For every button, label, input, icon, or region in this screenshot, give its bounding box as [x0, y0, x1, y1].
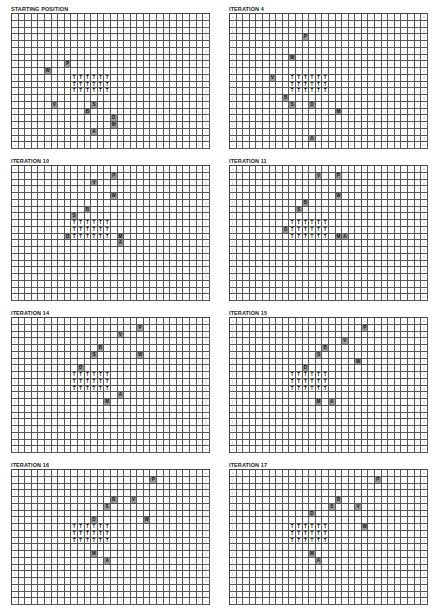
grid-cell	[91, 426, 98, 433]
grid-cell	[65, 180, 72, 187]
grid-cell	[111, 102, 118, 109]
grid-cell	[137, 585, 144, 592]
grid-border: |	[203, 75, 210, 82]
grid-cell	[58, 477, 65, 484]
grid-cell	[336, 345, 343, 352]
grid-cell	[144, 261, 151, 268]
grid-border: -	[190, 294, 197, 301]
grid-cell	[65, 102, 72, 109]
grid-cell	[78, 247, 85, 254]
grid-cell	[170, 173, 177, 180]
grid-cell	[322, 186, 329, 193]
grid-cell	[137, 247, 144, 254]
grid-border: -	[395, 14, 402, 21]
grid-border: -	[250, 318, 257, 325]
grid-cell	[250, 68, 257, 75]
grid-cell	[78, 571, 85, 578]
grid-cell	[316, 136, 323, 143]
grid-cell	[388, 274, 395, 281]
grid-cell	[237, 129, 244, 136]
grid-cell	[78, 433, 85, 440]
grid-cell	[190, 288, 197, 295]
grid-cell	[349, 571, 356, 578]
grid-cell	[19, 386, 26, 393]
grid-cell	[329, 34, 336, 41]
grid-cell	[276, 129, 283, 136]
agent-p: P	[65, 61, 72, 68]
grid-border: -	[38, 446, 45, 453]
grid-cell	[322, 359, 329, 366]
grid-cell	[71, 41, 78, 48]
grid-cell	[368, 21, 375, 28]
grid-cell	[270, 88, 277, 95]
grid-cell	[408, 61, 415, 68]
grid-cell	[303, 477, 310, 484]
grid-cell	[375, 61, 382, 68]
grid-cell	[177, 28, 184, 35]
grid-cell	[256, 592, 263, 599]
grid-border: -	[177, 294, 184, 301]
grid-border: |	[12, 267, 19, 274]
grid-cell	[401, 558, 408, 565]
grid-cell	[144, 240, 151, 247]
grid-cell	[58, 426, 65, 433]
grid-border: -	[111, 166, 118, 173]
grid-border-corner: +	[421, 142, 428, 149]
grid-cell	[289, 180, 296, 187]
grid-cell	[45, 75, 52, 82]
grid-cell	[150, 352, 157, 359]
grid-cell	[368, 136, 375, 143]
grid-cell	[270, 413, 277, 420]
grid-cell	[336, 200, 343, 207]
grid-cell	[157, 359, 164, 366]
grid-border: |	[203, 240, 210, 247]
grid-cell	[131, 82, 138, 89]
grid-border: -	[38, 166, 45, 173]
grid-cell	[118, 477, 125, 484]
grid-border: -	[164, 318, 171, 325]
grid-cell	[190, 345, 197, 352]
grid-border: -	[303, 166, 310, 173]
grid-cell	[256, 517, 263, 524]
grid-cell	[190, 440, 197, 447]
grid-cell	[362, 399, 369, 406]
grid-cell	[336, 28, 343, 35]
grid-cell	[263, 592, 270, 599]
grid-cell	[131, 21, 138, 28]
grid-cell	[237, 220, 244, 227]
grid-cell	[237, 200, 244, 207]
grid-cell	[329, 477, 336, 484]
grid-cell	[19, 247, 26, 254]
grid-cell	[322, 497, 329, 504]
grid-border: -	[111, 318, 118, 325]
grid-cell	[58, 55, 65, 62]
grid-cell	[303, 571, 310, 578]
grid-cell	[170, 75, 177, 82]
grid-cell	[329, 517, 336, 524]
grid-cell	[91, 213, 98, 220]
grid-cell	[58, 109, 65, 116]
grid-cell	[408, 48, 415, 55]
grid-cell	[349, 352, 356, 359]
grid-cell	[395, 359, 402, 366]
grid-cell	[170, 240, 177, 247]
grid-border: -	[19, 446, 26, 453]
grid-cell	[237, 325, 244, 332]
grid-cell	[382, 332, 389, 339]
grid-cell	[45, 558, 52, 565]
grid-cell	[137, 234, 144, 241]
grid-cell	[25, 48, 32, 55]
grid-cell	[19, 136, 26, 143]
agent-p: P	[303, 34, 310, 41]
grid-cell	[375, 274, 382, 281]
grid-cell	[177, 82, 184, 89]
grid-cell	[118, 413, 125, 420]
grid-border: |	[203, 551, 210, 558]
grid-cell	[296, 558, 303, 565]
grid-border-corner: +	[230, 598, 237, 605]
grid-border: -	[85, 142, 92, 149]
grid-cell	[408, 200, 415, 207]
grid-border-corner: +	[421, 446, 428, 453]
grid-cell	[52, 240, 59, 247]
grid-cell	[144, 227, 151, 234]
